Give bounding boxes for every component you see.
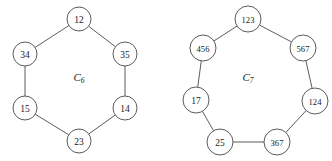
graph-edge (202, 111, 213, 130)
graph-node-label: 456 (197, 44, 211, 54)
graph-node-label: 23 (74, 137, 84, 147)
graph-figure-canvas: 1235142315341235671243672517456 C6C7 (0, 0, 332, 161)
graph-edge (35, 26, 69, 48)
graph-edge (286, 111, 306, 133)
graph-edge (35, 114, 69, 134)
graph-edge (89, 115, 116, 134)
nodes-layer: 1235142315341235671243672517456 (13, 6, 328, 155)
captions-layer: C6C7 (73, 71, 253, 85)
graph-edge (260, 25, 292, 42)
graph-edge (306, 61, 312, 89)
graph-caption-c6: C6 (73, 71, 84, 85)
graph-node-label: 12 (74, 15, 84, 25)
graph-node-label: 14 (120, 104, 130, 114)
graph-node-label: 124 (309, 97, 323, 107)
graph-node-label: 25 (215, 138, 225, 148)
graph-edge (198, 61, 202, 87)
graph-node-label: 15 (20, 104, 30, 114)
graph-node-label: 367 (271, 138, 285, 148)
graph-node-label: 34 (20, 50, 30, 60)
graph-caption-subscript: 7 (250, 76, 254, 85)
graph-node-label: 17 (191, 96, 201, 106)
graph-node-label: 123 (242, 15, 255, 25)
graph-edge (89, 26, 116, 46)
graph-caption-subscript: 6 (81, 76, 85, 85)
graph-node-label: 567 (297, 44, 311, 54)
edges-layer (25, 25, 312, 142)
graph-node-label: 35 (120, 50, 130, 60)
graph-edge (214, 26, 237, 41)
figure-root: 1235142315341235671243672517456 C6C7 (0, 0, 332, 161)
graph-caption-c7: C7 (242, 71, 253, 85)
